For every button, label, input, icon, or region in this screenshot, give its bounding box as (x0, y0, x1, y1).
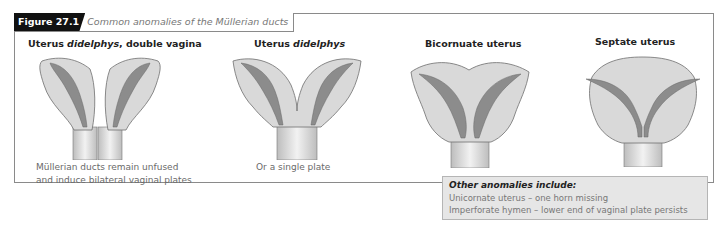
other-anomalies-box: Other anomalies include: Unicornate uter… (442, 176, 708, 220)
uterine-body (590, 57, 697, 143)
single-vaginal-plate (277, 125, 317, 160)
panel-4-heading: Septate uterus (595, 36, 675, 47)
left-vaginal-plate (73, 127, 97, 160)
panel-2-heading: Uterus didelphys (254, 38, 345, 49)
panel-2-heading-main: Uterus (254, 38, 293, 49)
figure-header: Figure 27.1 Common anomalies of the Müll… (14, 13, 294, 32)
panel-1-caption-line-2: and induce bilateral vaginal plates (36, 174, 192, 187)
panel-2-caption-line-1: Or a single plate (256, 161, 330, 174)
right-uterine-horn (105, 58, 160, 130)
uterine-body (411, 63, 529, 142)
panel-1-heading-main: Uterus (28, 38, 67, 49)
uterus-didelphys-double-vagina-illustration (30, 55, 170, 160)
right-vaginal-plate (98, 127, 122, 160)
panel-2-heading-italic: didelphys (293, 38, 345, 49)
other-anomaly-item: Unicornate uterus – one horn missing (449, 192, 701, 204)
panel-1-caption-line-1: Müllerian ducts remain unfused (36, 161, 192, 174)
other-anomaly-item: Imperforate hymen – lower end of vaginal… (449, 204, 701, 216)
bicornuate-uterus-illustration (405, 58, 535, 168)
other-anomalies-title: Other anomalies include: (449, 179, 701, 192)
septate-uterus-illustration (578, 55, 708, 167)
panel-1-heading-rest: , double vagina (119, 38, 202, 49)
vaginal-plate (451, 138, 489, 168)
panel-2-caption: Or a single plate (256, 161, 330, 174)
figure-title: Common anomalies of the Müllerian ducts (85, 13, 293, 31)
uterus-didelphys-single-plate-illustration (225, 55, 370, 160)
panel-1-heading: Uterus didelphys, double vagina (28, 38, 202, 49)
left-uterine-horn (40, 58, 95, 130)
figure-label: Figure 27.1 (14, 13, 85, 31)
panel-1-heading-italic: didelphys (67, 38, 119, 49)
panel-1-caption: Müllerian ducts remain unfused and induc… (36, 161, 192, 187)
panel-3-heading: Bicornuate uterus (425, 38, 521, 49)
